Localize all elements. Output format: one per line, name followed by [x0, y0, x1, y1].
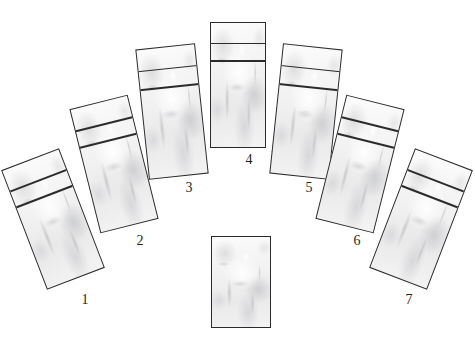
card-band-rule-upper [281, 65, 341, 73]
card-texture [212, 237, 270, 327]
card-number-label-2: 2 [129, 234, 151, 248]
card-band-rule-upper [341, 116, 400, 132]
card-number-label-1: 1 [74, 293, 96, 307]
card-number-label-7: 7 [398, 293, 420, 307]
card-band-rule-lower [15, 184, 74, 208]
card-texture [136, 44, 207, 178]
card-band-rule-upper [210, 43, 266, 45]
spread-card-3[interactable] [135, 43, 208, 180]
card-band-rule-lower [79, 132, 138, 149]
card-number-label-4: 4 [238, 153, 260, 167]
card-band-rule-lower [279, 83, 339, 91]
card-band-rule-lower [336, 132, 395, 149]
card-number-label-3: 3 [178, 181, 200, 195]
spread-card-4[interactable] [210, 22, 266, 148]
card-number-label-6: 6 [346, 234, 368, 248]
card-band-rule-lower [210, 60, 266, 62]
spread-card-center[interactable] [211, 236, 271, 328]
card-band-rule-lower [139, 83, 199, 91]
card-band-rule-upper [75, 116, 134, 132]
card-number-label-5: 5 [298, 181, 320, 195]
card-texture [211, 23, 265, 147]
card-spread-canvas: 1234567 [0, 0, 475, 350]
card-band-rule-lower [400, 184, 459, 208]
card-band-rule-upper [138, 65, 198, 73]
